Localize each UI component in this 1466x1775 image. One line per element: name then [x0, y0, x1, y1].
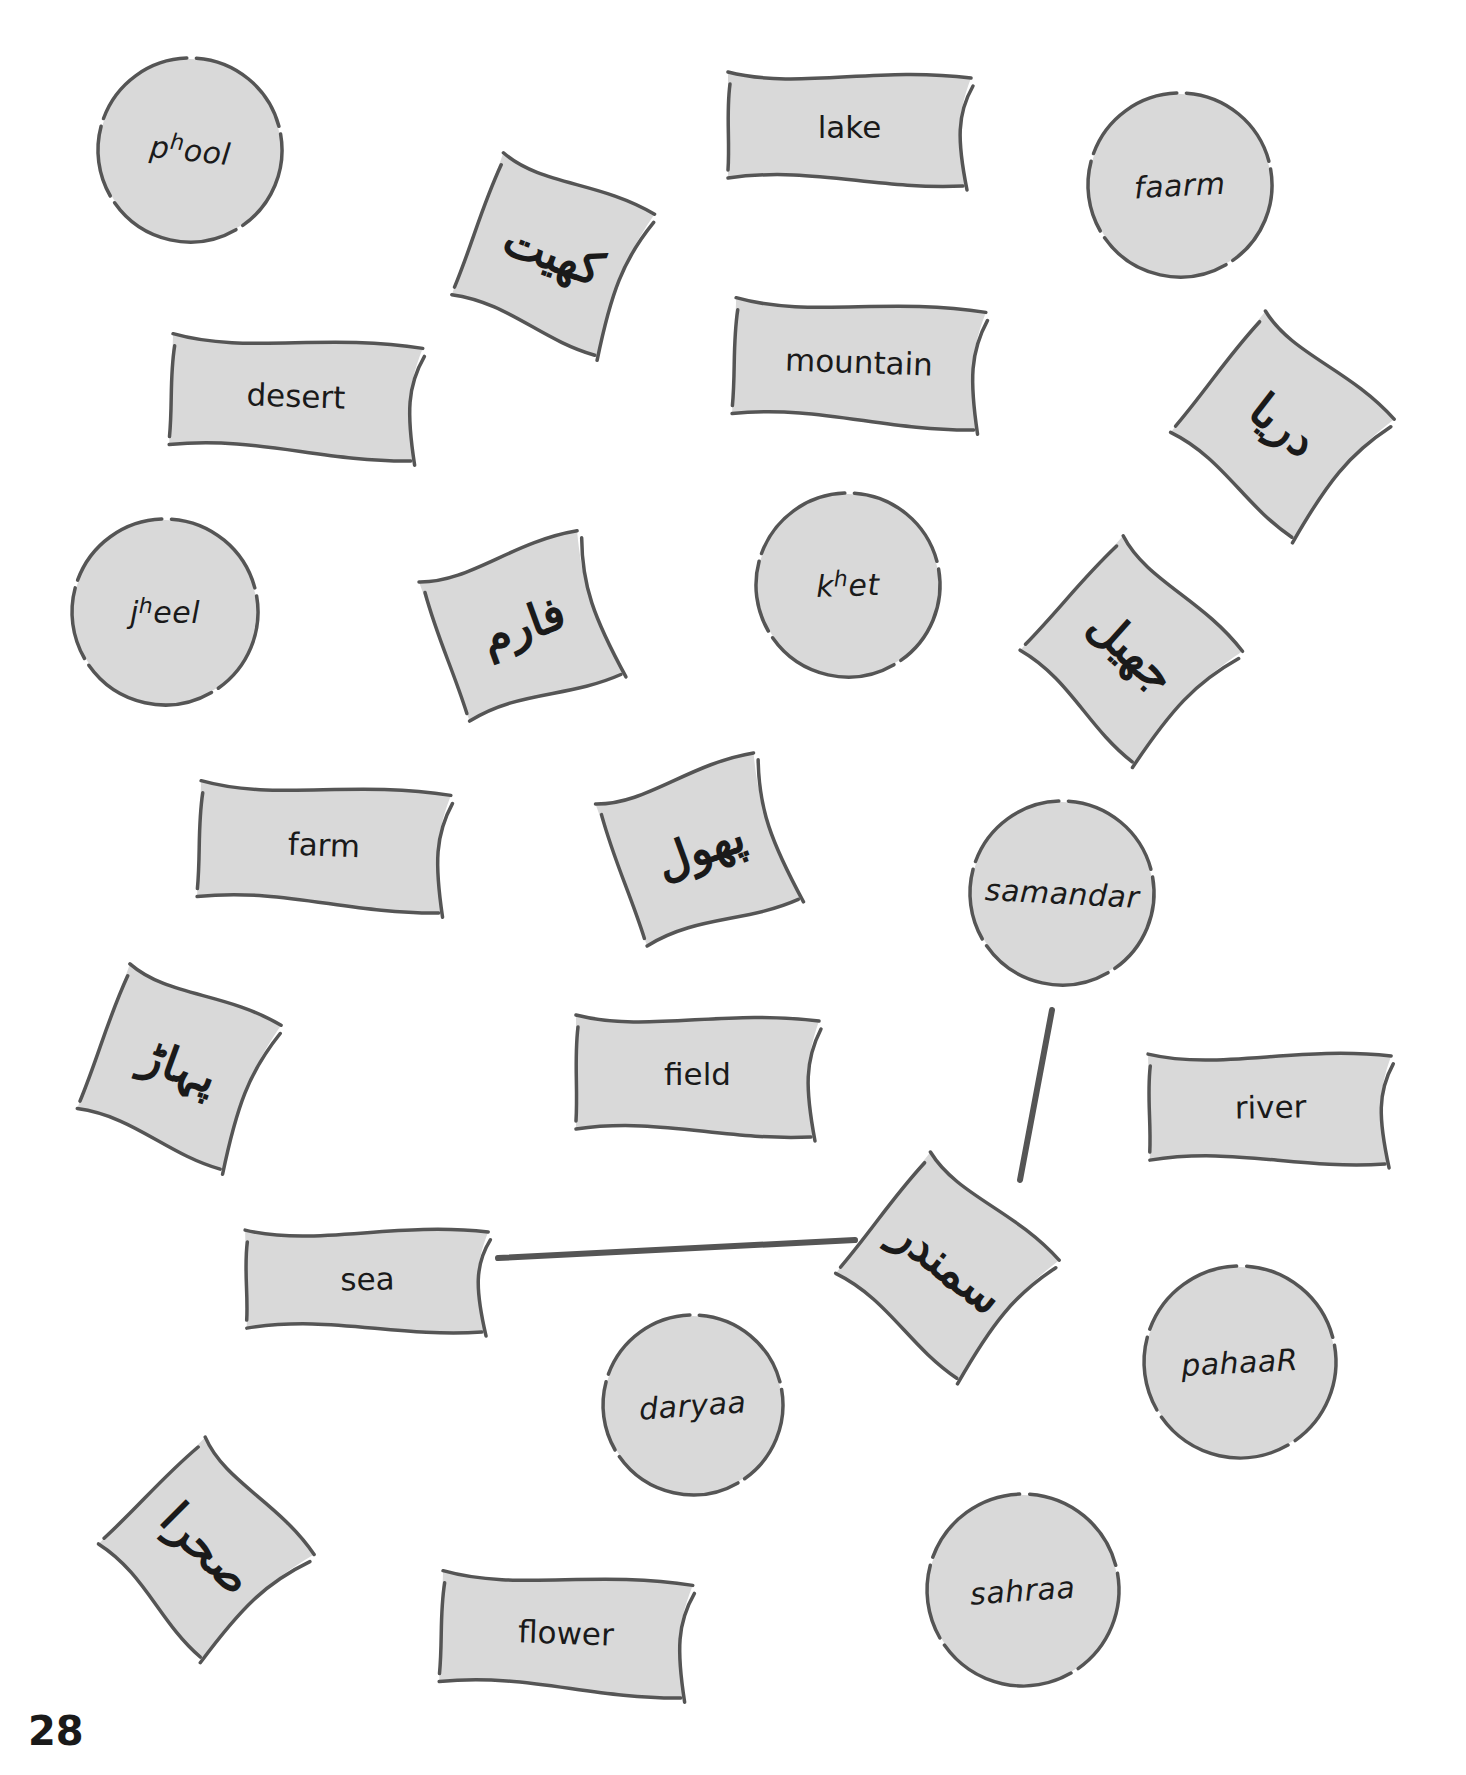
english-card-field[interactable]: field	[570, 1005, 825, 1143]
english-label: farm	[287, 826, 361, 865]
transliteration-card-samandar[interactable]: samandar	[965, 796, 1159, 990]
urdu-card-khet_ur[interactable]: کھیت	[441, 141, 665, 365]
transliteration-card-jheel[interactable]: jheel	[67, 514, 263, 710]
urdu-card-phool_ur[interactable]: پھول	[586, 735, 813, 960]
urdu-card-sahraa_ur[interactable]: صحرا	[84, 1425, 329, 1670]
transliteration-card-khet[interactable]: khet	[751, 488, 945, 682]
transliteration-card-pahaaR[interactable]: pahaaR	[1139, 1261, 1341, 1463]
english-card-mountain[interactable]: mountain	[726, 287, 993, 436]
english-label: flower	[518, 1613, 615, 1652]
transliteration-label: jheel	[130, 595, 200, 630]
page-number: 28	[28, 1708, 84, 1754]
english-card-flower[interactable]: flower	[433, 1560, 700, 1704]
urdu-card-daryaa_ur[interactable]: دریا	[1157, 299, 1408, 550]
english-label: lake	[818, 109, 882, 145]
transliteration-label: faarm	[1133, 165, 1226, 205]
transliteration-card-sahraa[interactable]: sahraa	[922, 1489, 1124, 1691]
transliteration-card-faarm[interactable]: faarm	[1083, 88, 1277, 282]
english-card-lake[interactable]: lake	[722, 62, 977, 192]
english-label: river	[1234, 1088, 1306, 1125]
english-card-sea[interactable]: sea	[239, 1216, 496, 1342]
urdu-card-jheel_ur[interactable]: جھیل	[1006, 524, 1257, 775]
english-card-desert[interactable]: desert	[163, 323, 430, 467]
worksheet-page: phool faarm jheel khet samandar pahaaR d…	[0, 0, 1466, 1775]
transliteration-label: khet	[816, 566, 881, 603]
english-label: field	[664, 1056, 731, 1092]
transliteration-label: samandar	[984, 871, 1140, 914]
urdu-card-samandar_ur[interactable]: سمندر	[822, 1140, 1073, 1391]
english-card-river[interactable]: river	[1142, 1040, 1399, 1174]
english-label: mountain	[784, 341, 933, 382]
urdu-card-faarm_ur[interactable]: فارم	[410, 514, 636, 737]
transliteration-label: pahaaR	[1181, 1341, 1300, 1382]
transliteration-label: daryaa	[638, 1384, 747, 1426]
transliteration-label: sahraa	[969, 1569, 1076, 1611]
match-line-sea-to-samandar_ur	[498, 1240, 855, 1258]
english-card-farm[interactable]: farm	[191, 770, 458, 919]
match-line-samandar-to-samandar_ur	[1020, 1010, 1052, 1180]
transliteration-card-phool[interactable]: phool	[93, 53, 287, 247]
top-cutoff-text	[0, 0, 1466, 4]
urdu-card-pahaaR_ur[interactable]: پہاڑ	[66, 952, 291, 1179]
english-label: desert	[246, 376, 346, 415]
transliteration-card-daryaa[interactable]: daryaa	[598, 1310, 788, 1500]
english-label: sea	[340, 1261, 395, 1298]
